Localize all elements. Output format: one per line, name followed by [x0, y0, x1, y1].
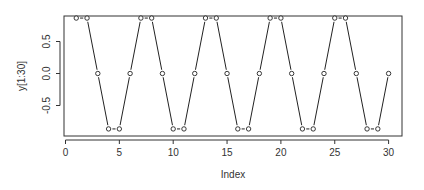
data-point — [236, 127, 240, 131]
data-point — [128, 71, 132, 75]
data-point — [85, 16, 89, 20]
data-point — [214, 16, 218, 20]
x-tick-label: 20 — [275, 147, 287, 158]
line-segment — [185, 77, 194, 125]
x-axis: 051015202530 — [63, 140, 395, 158]
x-tick-label: 5 — [117, 147, 123, 158]
plot-frame — [64, 16, 402, 136]
data-point — [149, 16, 153, 20]
line-segment — [314, 77, 323, 125]
data-point — [289, 71, 293, 75]
x-tick-label: 30 — [383, 147, 395, 158]
y-tick-label: 0.5 — [41, 34, 52, 48]
line-segment — [357, 77, 366, 125]
line-segment — [228, 77, 237, 125]
data-points — [74, 16, 391, 131]
data-point — [365, 127, 369, 131]
line-segment — [120, 77, 129, 125]
line-segment — [152, 22, 161, 70]
data-point — [354, 71, 358, 75]
line-segment — [282, 22, 291, 70]
y-axis-label: y[1:30] — [16, 61, 27, 91]
line-segment — [88, 22, 97, 70]
data-point — [322, 71, 326, 75]
data-point — [343, 16, 347, 20]
data-point — [386, 71, 390, 75]
line-point-chart: 051015202530 0.50.0-0.5 Index y[1:30] — [0, 0, 424, 190]
data-point — [96, 71, 100, 75]
line-segment — [249, 77, 258, 125]
data-point — [203, 16, 207, 20]
line-segment — [325, 22, 334, 70]
data-point — [225, 71, 229, 75]
data-point — [376, 127, 380, 131]
data-point — [182, 127, 186, 131]
y-axis: 0.50.0-0.5 — [41, 34, 60, 114]
data-point — [246, 127, 250, 131]
data-point — [257, 71, 261, 75]
line-segment — [217, 22, 226, 70]
line-segment — [99, 77, 108, 125]
line-segment — [131, 22, 140, 70]
data-line-segments — [80, 18, 388, 129]
data-point — [106, 127, 110, 131]
data-point — [311, 127, 315, 131]
line-segment — [292, 77, 301, 125]
data-point — [300, 127, 304, 131]
line-segment — [379, 77, 388, 125]
data-point — [268, 16, 272, 20]
data-point — [74, 16, 78, 20]
x-tick-label: 10 — [168, 147, 180, 158]
data-point — [279, 16, 283, 20]
line-segment — [346, 22, 355, 70]
data-point — [139, 16, 143, 20]
data-point — [333, 16, 337, 20]
y-tick-label: -0.5 — [41, 96, 52, 114]
line-segment — [260, 22, 269, 70]
data-point — [160, 71, 164, 75]
data-point — [117, 127, 121, 131]
x-tick-label: 0 — [63, 147, 69, 158]
line-segment — [163, 77, 172, 125]
data-point — [171, 127, 175, 131]
x-axis-label: Index — [221, 169, 245, 180]
line-segment — [195, 22, 204, 70]
x-tick-label: 25 — [329, 147, 341, 158]
x-tick-label: 15 — [221, 147, 233, 158]
data-point — [193, 71, 197, 75]
y-tick-label: 0.0 — [41, 66, 52, 80]
